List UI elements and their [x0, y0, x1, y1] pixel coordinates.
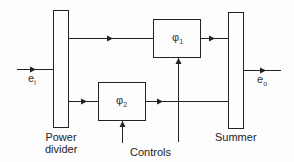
power-divider-block: [54, 11, 69, 128]
power-divider-label-line2: divider: [45, 143, 77, 155]
output-signal-label: eo: [257, 73, 267, 87]
arrow-icon: [107, 36, 113, 42]
phi2-label: φ2: [116, 94, 127, 108]
phi1-label: φ1: [172, 31, 183, 45]
controls-label: Controls: [130, 146, 171, 158]
arrow-icon: [209, 36, 215, 42]
summer-label: Summer: [215, 131, 257, 143]
summer-block: [229, 13, 244, 129]
arrow-icon: [81, 99, 87, 105]
arrow-icon: [157, 99, 163, 105]
power-divider-label: Power divider: [45, 131, 77, 155]
power-divider-label-line1: Power: [45, 131, 77, 143]
input-signal-label: ei: [28, 72, 36, 86]
arrow-icon: [176, 58, 182, 64]
arrow-icon: [120, 121, 126, 127]
